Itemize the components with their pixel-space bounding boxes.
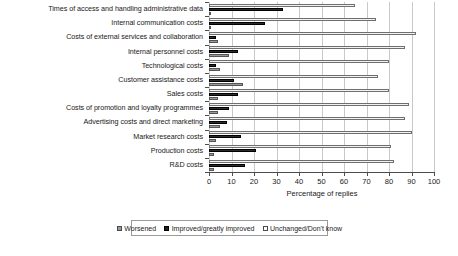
bar-group [209,2,434,16]
y-tick [205,2,209,3]
bar-improved [209,164,245,167]
plot-wrapper: Times of access and handling administrat… [0,0,458,186]
bar-group [209,115,434,129]
x-tick-40 [299,172,300,176]
category-label: Advertising costs and direct marketing [0,118,203,126]
bar-unchanged [209,131,412,134]
bar-worsened [209,111,218,114]
bar-chart: Times of access and handling administrat… [0,0,458,256]
bar-group [209,59,434,73]
x-tick-label-40: 40 [287,177,311,186]
bar-group [209,45,434,59]
bar-group [209,130,434,144]
bar-group [209,87,434,101]
bar-group [209,30,434,44]
bar-worsened [209,68,220,71]
x-tick-label-90: 90 [400,177,424,186]
bar-worsened [209,139,216,142]
x-tick-20 [254,172,255,176]
bar-improved [209,22,265,25]
y-tick [205,172,209,173]
plot-area [209,2,434,172]
legend-label: Unchanged/Don't know [270,225,342,232]
x-tick-label-60: 60 [332,177,356,186]
legend-label: Improved/greatly improved [172,225,255,232]
bar-improved [209,50,238,53]
bar-worsened [209,153,214,156]
category-label: Technological costs [0,62,203,70]
category-label: Production costs [0,147,203,155]
category-label: Sales costs [0,90,203,98]
category-label: Costs of external services and collabora… [0,33,203,41]
bar-worsened [209,12,211,15]
x-tick-10 [232,172,233,176]
x-tick-60 [344,172,345,176]
legend-item-improved[interactable]: Improved/greatly improved [164,225,254,232]
category-label: Customer assistance costs [0,76,203,84]
x-tick-label-30: 30 [265,177,289,186]
bar-worsened [209,40,218,43]
bar-improved [209,36,216,39]
bar-worsened [209,168,214,171]
x-tick-50 [322,172,323,176]
x-axis-title: Percentage of replies [209,189,435,198]
bar-worsened [209,26,211,29]
bar-unchanged [209,145,391,148]
y-tick [205,16,209,17]
bar-group [209,16,434,30]
legend-item-unchanged[interactable]: Unchanged/Don't know [263,225,343,232]
x-tick-30 [277,172,278,176]
y-tick [205,30,209,31]
bar-improved [209,121,227,124]
y-tick [205,73,209,74]
bar-group [209,144,434,158]
bar-improved [209,149,256,152]
bar-worsened [209,54,229,57]
legend-swatch-worsened [117,226,122,231]
bar-improved [209,93,238,96]
category-label: Internal communication costs [0,19,203,27]
x-tick-0 [209,172,210,176]
chart-legend: WorsenedImproved/greatly improvedUnchang… [131,220,328,236]
y-tick [205,130,209,131]
bar-unchanged [209,75,378,78]
bar-unchanged [209,89,389,92]
category-label: Internal personnel costs [0,48,203,56]
bar-unchanged [209,160,394,163]
y-tick [205,158,209,159]
category-axis-labels: Times of access and handling administrat… [0,0,207,172]
y-tick [205,87,209,88]
bar-improved [209,107,229,110]
bar-unchanged [209,60,389,63]
bar-improved [209,79,234,82]
x-tick-label-20: 20 [242,177,266,186]
legend-label: Worsened [124,225,156,232]
x-tick-label-10: 10 [220,177,244,186]
category-label: Market research costs [0,133,203,141]
category-label: R&D costs [0,161,203,169]
gridline-100 [434,2,435,172]
bar-group [209,158,434,172]
bar-worsened [209,83,243,86]
x-tick-label-0: 0 [197,177,221,186]
bar-unchanged [209,4,355,7]
bar-improved [209,64,216,67]
y-tick [205,59,209,60]
y-tick [205,101,209,102]
x-tick-100 [434,172,435,176]
x-tick-label-100: 100 [422,177,446,186]
bar-unchanged [209,46,405,49]
x-tick-label-80: 80 [377,177,401,186]
bar-unchanged [209,103,409,106]
bar-improved [209,8,283,11]
x-tick-label-70: 70 [355,177,379,186]
legend-item-worsened[interactable]: Worsened [117,225,156,232]
legend-swatch-improved [164,226,169,231]
category-label: Times of access and handling administrat… [0,5,203,13]
x-tick-label-50: 50 [310,177,334,186]
bar-unchanged [209,32,416,35]
bar-group [209,73,434,87]
y-tick [205,144,209,145]
category-label: Costs of promotion and loyalty programme… [0,104,203,112]
x-tick-90 [412,172,413,176]
